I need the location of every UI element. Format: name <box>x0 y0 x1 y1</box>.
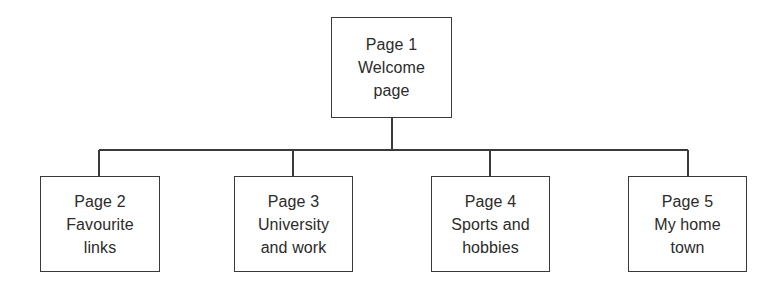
node-page-4[interactable]: Page 4 Sports and hobbies <box>431 176 550 272</box>
diagram-canvas: Page 1 Welcome page Page 2 Favourite lin… <box>0 0 777 298</box>
node-page-3-line-3: and work <box>261 236 327 259</box>
node-page-3-line-1: Page 3 <box>268 190 319 213</box>
node-page-1-line-1: Page 1 <box>366 33 417 56</box>
node-page-2-line-2: Favourite <box>66 213 134 236</box>
node-page-5-line-1: Page 5 <box>662 190 713 213</box>
node-page-2-line-1: Page 2 <box>74 190 125 213</box>
node-page-2-line-3: links <box>84 236 117 259</box>
node-page-1-line-3: page <box>374 79 410 102</box>
node-page-2[interactable]: Page 2 Favourite links <box>40 176 160 272</box>
node-page-4-line-1: Page 4 <box>465 190 516 213</box>
node-page-3[interactable]: Page 3 University and work <box>234 176 353 272</box>
node-page-5-line-2: My home <box>654 213 721 236</box>
node-page-4-line-3: hobbies <box>462 236 519 259</box>
node-page-3-line-2: University <box>258 213 329 236</box>
node-page-5[interactable]: Page 5 My home town <box>628 176 747 272</box>
node-page-5-line-3: town <box>670 236 704 259</box>
node-page-4-line-2: Sports and <box>451 213 529 236</box>
node-page-1[interactable]: Page 1 Welcome page <box>331 17 452 118</box>
node-page-1-line-2: Welcome <box>358 56 425 79</box>
